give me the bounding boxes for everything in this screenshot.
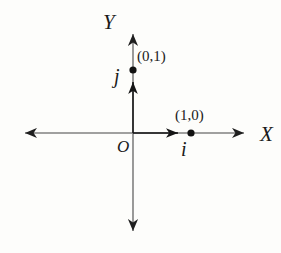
x-axis-label: X [260,124,273,145]
point-0-1-marker [129,66,136,73]
point-1-0-label: (1,0) [175,108,204,123]
point-0-1-label: (0,1) [137,49,166,64]
origin-label: O [117,138,129,155]
coordinate-diagram: Y X O i j (0,1) (1,0) [0,0,281,253]
vector-i-label: i [181,139,187,159]
point-1-0-marker [187,129,194,136]
y-axis-label: Y [103,12,115,33]
vector-j-label: j [114,66,120,86]
diagram-canvas [0,0,281,253]
